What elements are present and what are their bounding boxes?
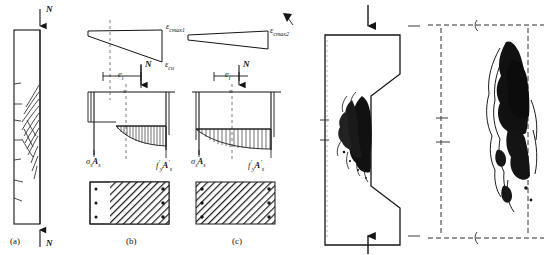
panel-c-compression-zone-hatch	[196, 182, 275, 224]
panel-a-column-outline	[14, 30, 40, 224]
figure-canvas	[0, 0, 549, 255]
panel-c-as-subscript: s	[203, 162, 205, 168]
panel-b-cross-section	[90, 182, 169, 224]
photo-1-stepped-specimen	[320, 5, 420, 254]
photo-2-specimen-frame	[428, 25, 544, 238]
panel-b-as2-subscript: s	[170, 166, 172, 172]
panel-c-cross-section	[196, 182, 275, 224]
photo-2-side-ticks	[436, 118, 450, 142]
panel-c-eccentricity-subscript: i	[229, 75, 231, 81]
panel-a-caption: (a)	[10, 237, 20, 246]
panel-a-left-crack-ticks	[14, 83, 23, 201]
panel-b-strain-subscript: cmax1	[169, 27, 185, 33]
panel-a-load-label-bottom: N	[46, 239, 53, 248]
panel-c-stress-block	[196, 129, 271, 149]
panel-b-strain-cu-subscript: cu	[168, 65, 174, 71]
figure-root: N N (a) εcmax1 εcu ei N x σsAs f′yA′s (b…	[0, 0, 549, 255]
panel-b-section-body	[88, 84, 175, 160]
panel-c-eccentricity-label: ei	[225, 70, 230, 81]
panel-a-crack-pattern	[22, 85, 39, 179]
photo-2-rectangular-specimen	[428, 20, 544, 244]
panel-c-as2-subscript: s	[262, 166, 264, 172]
panel-c-strain-label-cmax2: εcmax2	[270, 26, 289, 37]
panel-c-stress-label-right: f′yA′s	[248, 159, 264, 172]
panel-b-as-subscript: s	[98, 162, 100, 168]
panel-c	[188, 13, 293, 224]
panel-b	[88, 20, 175, 224]
panel-a-load-label-top: N	[46, 5, 53, 14]
panel-b-strain-label-cu: εcu	[165, 60, 174, 71]
panel-c-caption: (c)	[232, 237, 242, 246]
panel-c-section-body	[192, 84, 281, 160]
panel-c-strain-subscript: cmax2	[273, 31, 289, 37]
panel-b-caption: (b)	[126, 237, 137, 246]
panel-b-neutral-axis-label: x	[123, 88, 126, 94]
panel-b-strain-label-cmax1: εcmax1	[166, 22, 185, 33]
panel-b-eccentricity-subscript: i	[122, 75, 124, 81]
panel-b-stress-label-left: σsAs	[86, 157, 101, 168]
panel-c-corner-arrow-marker	[283, 13, 293, 25]
panel-b-stress-block	[116, 126, 166, 146]
panel-b-eccentricity-label: ei	[118, 70, 123, 81]
photo-2-crushing-damage	[487, 41, 537, 212]
panel-b-compression-zone-hatch	[110, 182, 169, 224]
photo-2-corner-marks	[475, 20, 478, 244]
panel-c-neutral-axis-label: x	[229, 88, 232, 94]
panel-b-stress-label-right: f′yA′s	[156, 159, 172, 172]
panel-b-axial-load-label: N	[145, 60, 152, 69]
panel-c-stress-label-left: σsAs	[191, 157, 206, 168]
panel-c-strain-diagram	[188, 31, 268, 49]
panel-a-column-elevation	[14, 9, 40, 247]
panel-c-axial-load-label: N	[243, 60, 250, 69]
